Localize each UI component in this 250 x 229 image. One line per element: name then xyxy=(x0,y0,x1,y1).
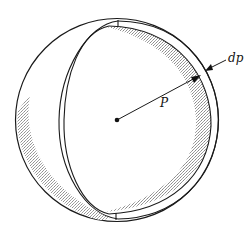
thickness-label: dp xyxy=(228,51,244,65)
radius-label: P xyxy=(159,96,169,110)
thickness-arrowhead-icon xyxy=(205,64,213,71)
spherical-shell-diagram: P dp xyxy=(0,0,250,229)
